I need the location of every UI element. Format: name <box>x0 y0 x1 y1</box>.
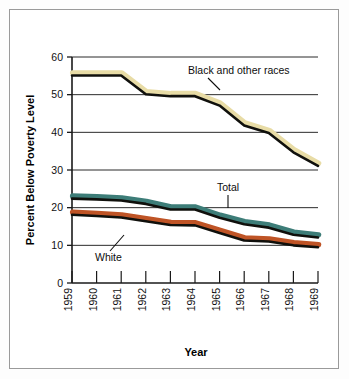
poverty-line-chart: 0102030405060 19591960196119621963196419… <box>0 0 349 379</box>
black-other-leader-line <box>208 78 220 90</box>
y-tick-label-40: 40 <box>51 126 63 138</box>
x-tick-label-1968: 1968 <box>283 288 295 312</box>
y-tick-label-30: 30 <box>51 164 63 176</box>
black-other-races-label: Black and other races <box>188 64 290 76</box>
y-tick-label-0: 0 <box>57 277 63 289</box>
series-lines <box>72 73 319 247</box>
x-tick-label-1967: 1967 <box>259 288 271 312</box>
x-tick-label-1960: 1960 <box>87 288 99 312</box>
total-label: Total <box>217 181 239 193</box>
white-leader-line <box>110 235 124 251</box>
y-tick-label-10: 10 <box>51 239 63 251</box>
series-highlight-black-and-other-races <box>73 73 319 163</box>
y-axis-title: Percent Below Poverty Level <box>24 95 36 245</box>
x-tick-label-1964: 1964 <box>185 288 197 312</box>
x-tick-label-1969: 1969 <box>308 288 320 312</box>
x-tick-marks <box>72 271 318 283</box>
x-tick-label-1962: 1962 <box>136 288 148 312</box>
x-tick-labels: 1959196019611962196319641965196619671968… <box>62 288 320 312</box>
x-tick-label-1965: 1965 <box>210 288 222 312</box>
x-tick-label-1961: 1961 <box>111 288 123 312</box>
figure-root: 0102030405060 19591960196119621963196419… <box>0 0 349 379</box>
x-tick-label-1966: 1966 <box>234 288 246 312</box>
y-tick-labels: 0102030405060 <box>51 51 63 289</box>
y-tick-label-60: 60 <box>51 51 63 63</box>
y-tick-label-50: 50 <box>51 88 63 100</box>
x-tick-label-1963: 1963 <box>160 288 172 312</box>
white-label: White <box>95 251 122 263</box>
series-line-black-and-other-races <box>72 75 318 165</box>
x-axis-title: Year <box>184 346 208 358</box>
x-tick-label-1959: 1959 <box>62 288 74 312</box>
y-tick-label-20: 20 <box>51 201 63 213</box>
